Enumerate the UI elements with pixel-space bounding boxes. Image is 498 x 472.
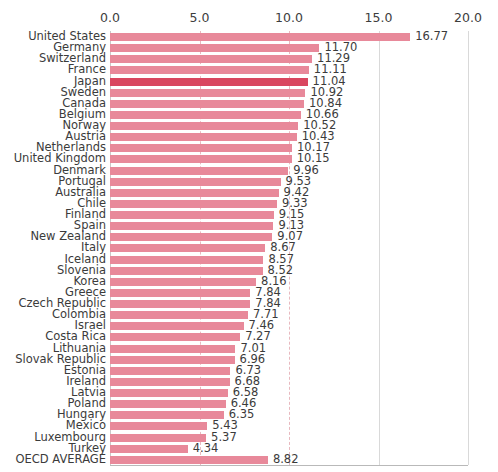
bar — [110, 378, 230, 386]
bar — [110, 89, 305, 97]
bar — [110, 456, 268, 464]
bar — [110, 111, 301, 119]
x-tick-label: 20.0 — [454, 10, 482, 25]
bar — [110, 345, 235, 353]
bar — [110, 244, 265, 252]
bar — [110, 434, 206, 442]
bar-value-label: 4.34 — [193, 442, 219, 455]
bar — [110, 178, 281, 186]
bar — [110, 233, 272, 241]
x-tick-label: 5.0 — [190, 10, 210, 25]
x-tick-label: 15.0 — [365, 10, 393, 25]
bar — [110, 33, 410, 41]
bar-chart: 0.05.010.015.020.0 United States16.77Ger… — [0, 0, 498, 472]
bar — [110, 167, 288, 175]
x-tick-label: 0.0 — [100, 10, 120, 25]
bar-row: OECD AVERAGE8.82 — [0, 454, 498, 466]
bar — [110, 278, 256, 286]
bar — [110, 389, 228, 397]
bar — [110, 200, 277, 208]
bar — [110, 44, 319, 52]
bar — [110, 333, 240, 341]
bar-value-label: 8.82 — [273, 453, 299, 466]
bar — [110, 300, 250, 308]
x-axis-ticks: 0.05.010.015.020.0 — [0, 10, 498, 28]
bar — [110, 211, 274, 219]
bar-value-label: 16.77 — [415, 30, 448, 43]
category-label: OECD AVERAGE — [0, 453, 106, 466]
bar — [110, 367, 230, 375]
bar — [110, 411, 224, 419]
bar — [110, 144, 292, 152]
bar — [110, 267, 263, 275]
bar — [110, 155, 292, 163]
bar — [110, 311, 248, 319]
bar — [110, 66, 309, 74]
bar — [110, 189, 279, 197]
bar — [110, 289, 250, 297]
bar — [110, 256, 263, 264]
bar — [110, 133, 297, 141]
bar — [110, 400, 226, 408]
bar — [110, 322, 244, 330]
bar — [110, 78, 308, 86]
bar — [110, 55, 312, 63]
bar — [110, 100, 304, 108]
bar — [110, 122, 298, 130]
bar — [110, 222, 273, 230]
x-tick-label: 10.0 — [275, 10, 303, 25]
bar — [110, 445, 188, 453]
bar — [110, 422, 207, 430]
bar — [110, 356, 235, 364]
